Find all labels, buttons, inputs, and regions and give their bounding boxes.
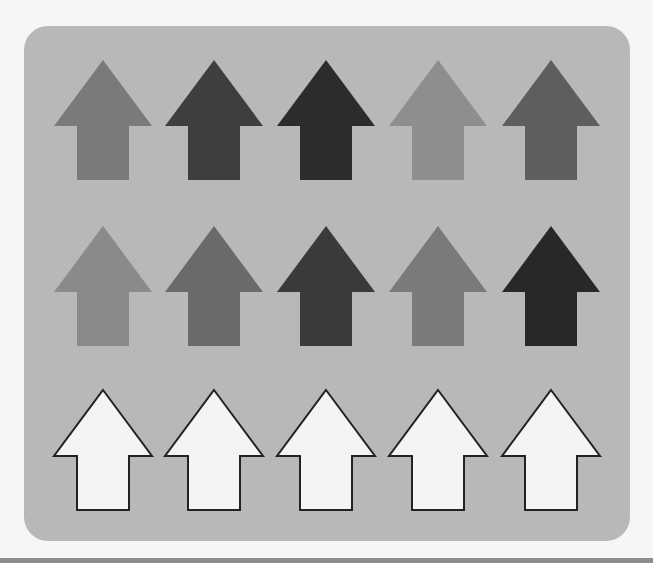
- up-arrow-icon: [54, 60, 152, 180]
- row-1: [54, 60, 600, 180]
- up-arrow-icon: [165, 226, 263, 346]
- up-arrow-icon: [277, 390, 375, 510]
- row-2: [54, 226, 600, 346]
- up-arrow-icon: [389, 60, 487, 180]
- up-arrow-icon: [54, 390, 152, 510]
- up-arrow-icon: [277, 60, 375, 180]
- up-arrow-icon: [502, 226, 600, 346]
- up-arrow-icon: [165, 390, 263, 510]
- row-3: [54, 390, 600, 510]
- up-arrow-icon: [389, 226, 487, 346]
- up-arrow-icon: [389, 390, 487, 510]
- arrow-grid: [0, 0, 653, 563]
- up-arrow-icon: [165, 60, 263, 180]
- up-arrow-icon: [54, 226, 152, 346]
- up-arrow-icon: [277, 226, 375, 346]
- up-arrow-icon: [502, 60, 600, 180]
- up-arrow-icon: [502, 390, 600, 510]
